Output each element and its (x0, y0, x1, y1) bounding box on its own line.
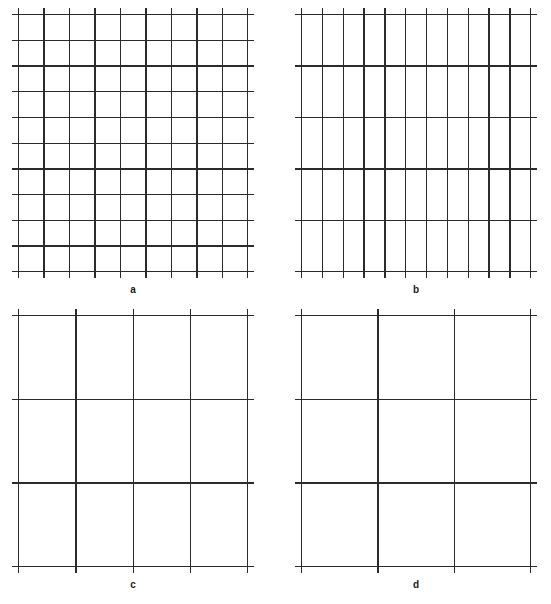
grid-hline (295, 399, 537, 400)
grid-hline (12, 399, 254, 400)
grid-vline (454, 309, 455, 573)
grid-vline (301, 8, 302, 278)
grid-hline (12, 566, 254, 567)
grid-hline (295, 271, 537, 272)
grid-vline (18, 309, 19, 573)
grid-hline (295, 14, 537, 15)
grid-hline (12, 194, 254, 195)
grid-hline (12, 245, 254, 246)
grid-hline (295, 220, 537, 221)
panel-label-c: c (18, 579, 248, 590)
grid-hline (295, 482, 537, 483)
grid-hline (12, 117, 254, 118)
grid-plot-d (301, 315, 531, 567)
panel-label-d: d (301, 579, 531, 590)
grid-vline (530, 8, 531, 278)
grid-hline (295, 65, 537, 66)
grid-vline (190, 309, 191, 573)
panel-label-a: a (18, 284, 248, 295)
grid-vline (426, 8, 427, 278)
grid-plot-a (18, 14, 248, 272)
grid-hline (12, 482, 254, 483)
panel-a: a (18, 14, 248, 272)
figure-container: abcd (0, 0, 551, 604)
grid-vline (530, 309, 531, 573)
grid-vline (247, 309, 248, 573)
grid-hline (295, 315, 537, 316)
grid-hline (12, 271, 254, 272)
panel-d: d (301, 315, 531, 567)
grid-hline (12, 168, 254, 169)
grid-vline (377, 309, 378, 573)
grid-vline (363, 8, 364, 278)
grid-vline (384, 8, 385, 278)
grid-vline (343, 8, 344, 278)
grid-plot-b (301, 14, 531, 272)
grid-vline (301, 309, 302, 573)
grid-vline (405, 8, 406, 278)
grid-hline (12, 65, 254, 66)
grid-vline (133, 309, 134, 573)
grid-vline (509, 8, 510, 278)
panel-label-b: b (301, 284, 531, 295)
grid-hline (12, 143, 254, 144)
grid-hline (12, 40, 254, 41)
grid-hline (295, 168, 537, 169)
grid-vline (75, 309, 76, 573)
panel-b: b (301, 14, 531, 272)
grid-hline (12, 14, 254, 15)
grid-vline (468, 8, 469, 278)
grid-plot-c (18, 315, 248, 567)
grid-vline (488, 8, 489, 278)
grid-hline (295, 117, 537, 118)
grid-vline (447, 8, 448, 278)
panel-c: c (18, 315, 248, 567)
grid-vline (322, 8, 323, 278)
grid-hline (295, 566, 537, 567)
grid-hline (12, 315, 254, 316)
grid-hline (12, 220, 254, 221)
grid-hline (12, 91, 254, 92)
figure-caption (6, 599, 426, 604)
